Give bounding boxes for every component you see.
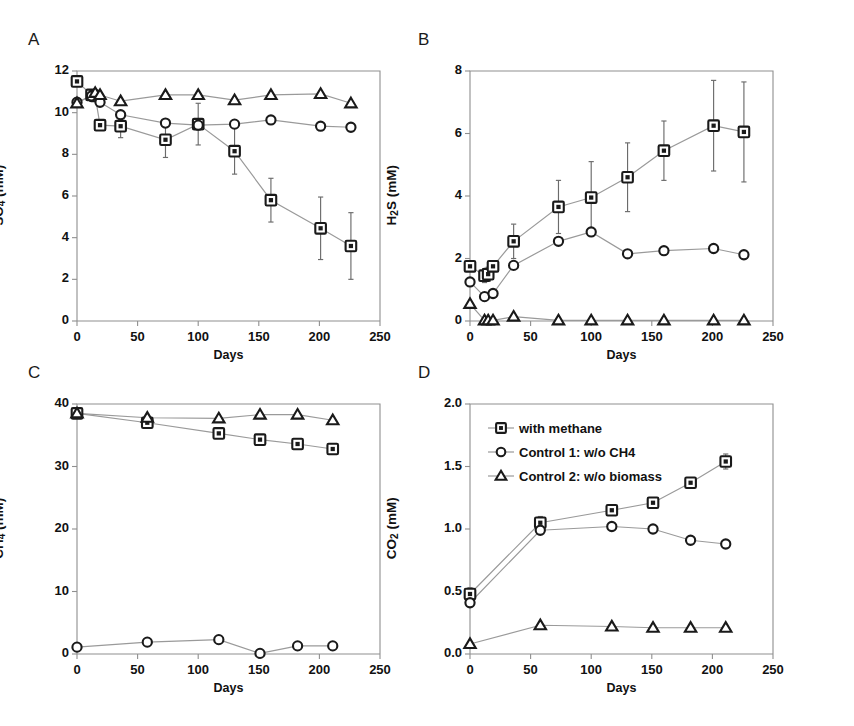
data-point-square: [479, 270, 490, 281]
data-point-triangle: [464, 638, 475, 648]
y-axis-title: SO4 (mM): [0, 70, 7, 320]
data-point-square-core: [89, 93, 93, 97]
data-point-triangle: [658, 315, 669, 325]
data-point-square-core: [145, 421, 149, 425]
x-tick-label: 200: [687, 662, 737, 677]
data-point-circle: [266, 115, 275, 124]
data-point-square-core: [589, 195, 593, 199]
data-point-triangle: [265, 89, 276, 99]
y-tick-label: 6: [15, 187, 69, 202]
data-point-square: [214, 428, 225, 439]
data-point-triangle: [345, 98, 356, 108]
x-tick-label: 100: [173, 662, 223, 677]
data-point-square-core: [468, 264, 472, 268]
data-point-square: [160, 134, 171, 145]
data-point-triangle: [720, 622, 731, 632]
data-point-square-core: [724, 459, 728, 463]
y-tick-label: 0: [15, 645, 69, 660]
series-line-triangle: [470, 625, 726, 644]
data-point-square: [535, 517, 546, 528]
legend-item-triangle[interactable]: Control 2: w/o biomass: [488, 464, 662, 488]
series-line-circle: [470, 232, 744, 297]
legend: with methaneControl 1: w/o CH4Control 2:…: [488, 416, 662, 488]
data-point-square-core: [742, 130, 746, 134]
data-point-square: [607, 505, 618, 516]
data-point-triangle: [738, 315, 749, 325]
data-point-triangle: [487, 315, 498, 325]
legend-label: Control 1: w/o CH4: [519, 445, 635, 460]
series-line-triangle: [77, 93, 351, 103]
figure-root: A024681012050100150200250DaysSO4 (mM)B02…: [0, 0, 854, 726]
data-point-square: [72, 76, 83, 87]
y-tick-label: 10: [15, 583, 69, 598]
series-line-circle: [77, 640, 333, 654]
data-point-circle: [161, 118, 170, 127]
panel-letter-a: A: [28, 30, 39, 50]
x-tick-label: 50: [113, 329, 163, 344]
data-point-circle: [709, 244, 718, 253]
x-tick-label: 200: [687, 329, 737, 344]
y-tick-label: 0.5: [408, 583, 462, 598]
x-tick-label: 200: [294, 329, 344, 344]
data-point-square-core: [232, 149, 236, 153]
data-point-triangle: [508, 311, 519, 321]
data-point-circle: [465, 277, 474, 286]
data-point-circle: [316, 122, 325, 131]
data-point-circle: [648, 524, 657, 533]
data-point-square-core: [625, 175, 629, 179]
legend-item-square[interactable]: with methane: [488, 416, 662, 440]
y-tick-label: 8: [15, 145, 69, 160]
data-point-circle: [143, 638, 152, 647]
data-point-square: [266, 195, 277, 206]
data-point-triangle: [229, 95, 240, 105]
plot-frame-b: [470, 71, 773, 321]
data-point-square-core: [295, 442, 299, 446]
x-tick-label: 100: [566, 329, 616, 344]
legend-glyph-square-core: [499, 426, 503, 430]
y-tick-label: 6: [408, 125, 462, 140]
data-point-triangle: [482, 315, 493, 325]
y-tick-label: 4: [15, 229, 69, 244]
plot-frame-a: [77, 71, 380, 321]
data-point-square: [685, 477, 696, 488]
data-point-triangle: [213, 413, 224, 423]
legend-marker-circle-icon: [488, 444, 514, 460]
data-point-circle: [328, 641, 337, 650]
data-point-square-core: [610, 508, 614, 512]
data-point-circle: [72, 643, 81, 652]
legend-label: Control 2: w/o biomass: [519, 469, 662, 484]
data-point-triangle: [647, 622, 658, 632]
data-point-square: [86, 90, 97, 101]
data-point-square: [115, 121, 126, 132]
data-point-triangle: [160, 89, 171, 99]
data-point-circle: [95, 98, 104, 107]
y-tick-label: 0.0: [408, 645, 462, 660]
data-point-triangle: [192, 89, 203, 99]
data-point-square-core: [349, 244, 353, 248]
x-tick-label: 150: [627, 662, 677, 677]
data-point-square-core: [651, 501, 655, 505]
data-point-square-core: [491, 264, 495, 268]
legend-item-circle[interactable]: Control 1: w/o CH4: [488, 440, 662, 464]
x-tick-label: 50: [506, 329, 556, 344]
data-point-square: [708, 120, 719, 131]
y-tick-label: 0: [15, 312, 69, 327]
data-point-square-core: [217, 431, 221, 435]
x-axis-title: Days: [179, 348, 279, 362]
data-point-circle: [536, 526, 545, 535]
data-point-square-core: [75, 411, 79, 415]
data-point-square-core: [512, 239, 516, 243]
series-line-triangle: [77, 413, 333, 420]
data-point-square: [229, 146, 240, 157]
series-line-square: [470, 126, 744, 276]
data-point-square: [483, 269, 494, 280]
data-point-square-core: [711, 124, 715, 128]
data-point-square-core: [688, 481, 692, 485]
y-tick-label: 2: [408, 250, 462, 265]
data-point-square-core: [163, 138, 167, 142]
data-point-circle: [87, 91, 96, 100]
series-line-triangle: [470, 304, 744, 321]
data-point-circle: [214, 635, 223, 644]
data-point-square: [465, 589, 476, 600]
data-point-square: [95, 120, 106, 131]
